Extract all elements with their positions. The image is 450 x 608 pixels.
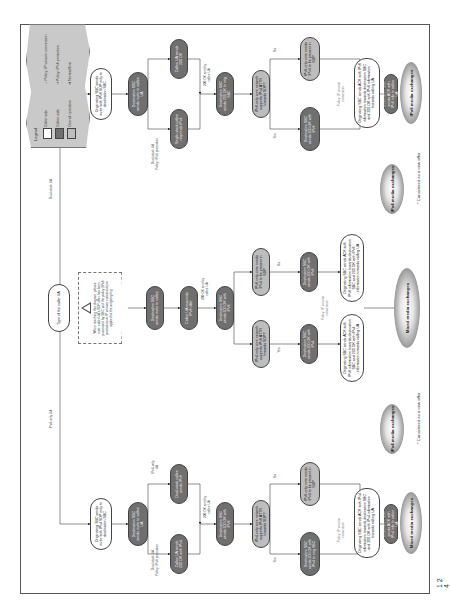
left-node-l9: Destination SBC sends ACK with IPv4 info… [384, 504, 398, 544]
note-box: When reaching this diagram, please note:… [78, 272, 122, 344]
left-node-l6: Destination SBC sends 200 OK with IPv4 t… [300, 532, 320, 576]
right-edge-dual: Dual-stack UA Policy: IPv6 promotion [152, 134, 160, 174]
left-callee-node: Destination SBC sends invite to callee U… [128, 502, 148, 546]
legend-arrow-promotion-label: Policy: IPv6 promotion [56, 45, 60, 81]
right-edge-policy: Policy: IP version conversion [338, 74, 346, 114]
right-node-r4: Destination SBC sends 200 OK to orig SBC [216, 72, 234, 116]
left-node-l3: Destination SBC sends 200 OK with IPv6 [216, 502, 234, 546]
legend-swatch-callee [55, 128, 64, 139]
right-node-r2: Single-stack callee responds IPv4 [170, 109, 188, 149]
legend-arrow-conversion-label: Policy: IP version conversion [44, 35, 48, 81]
mid-node-m5: IPv6-only core needs IPv4 to be present … [252, 248, 270, 296]
right-edge-no: No [274, 44, 278, 56]
footnote-left: * Considered as a new offer [416, 392, 421, 444]
left-node-l8: Originating SBC sends ACK with IPv4 info… [354, 488, 380, 558]
mid-edge-policy: Policy: IP version conversion [322, 288, 330, 328]
footnote-right: * Considered as a new offer [416, 152, 421, 204]
root-node: Type of the caller UA [48, 284, 70, 332]
left-cloud-ipv4: IPv4 media exchanges [380, 404, 404, 454]
left-edge-yes: Yes [274, 554, 278, 566]
right-edge-200ok: 200 OK sent by callee UA [204, 60, 212, 90]
branch-dual-stack-label: Dual-stack UA [50, 164, 54, 214]
flowchart-stage: Legend Caller side Callee side Overall o… [20, 22, 432, 594]
note-text: When reaching this diagram, please note:… [93, 280, 113, 335]
mid-edge-200ok: 200 OK sent by callee UA [202, 274, 210, 304]
right-cloud-ipv4: IPv4 media exchanges [380, 164, 404, 214]
left-edge-dual: Dual-stack UA Policy: IPv6 promotion [152, 540, 160, 580]
legend-label-caller: Caller side [44, 110, 48, 127]
right-node-r9: Originating SBC sends ACK with IPv6 info… [354, 58, 380, 128]
mid-node-m2: Callee UA responds IPv6 offer [180, 286, 198, 330]
right-start-node: Originating SBC sends invite with IPv6 S… [90, 68, 112, 120]
mid-edge-yes: Yes [278, 344, 282, 356]
legend-arrow-normal: ➔ Normal flow [68, 62, 72, 85]
mid-node-m7: Destination SBC sends 200 OK with IPv6 [300, 252, 318, 292]
legend-swatch-caller [43, 128, 52, 139]
right-edge-yes: Yes [274, 130, 278, 142]
mid-node-m6: Destination SBC sends 200 OK with IPv4 [300, 324, 318, 364]
left-node-l2: Dual-stack callee sends IPv6 [170, 464, 188, 504]
mid-node-m3: Destination SBC sends 200 OK with IPv6 [216, 286, 234, 330]
legend-arrow-promotion: ⇢ Policy: IPv6 promotion [56, 45, 60, 85]
left-node-l5: IPv6-only core needs IPv4 to be present … [300, 462, 320, 506]
right-node-r6: IPv6-only core needs IPv4 to be present … [300, 37, 320, 81]
left-edge-ipv6: IPv6-only UA [152, 452, 160, 482]
mid-cloud-mixed: Mixed media exchanges [394, 268, 420, 348]
left-node-l4: IPv4-only core network supports IPv6 ATT… [252, 500, 270, 548]
page-number: 1 2 4 [436, 576, 450, 588]
mid-node-m9: Originating SBC sends ACK with IPv6 info… [340, 234, 364, 302]
mid-node-m8: Originating SBC sends ACK with IPv6 info… [340, 314, 364, 382]
left-node-l1: Callee UA sends 200 OK with IPv4 [170, 534, 188, 574]
right-node-r11: Destination SBC sends ACK with IPv6 info… [384, 74, 398, 114]
right-cloud-ipv6: IPv6 media exchanges [400, 62, 422, 124]
mid-node-m1: Destination SBC sends invite to callee [146, 286, 164, 330]
legend-label-callee: Callee side [56, 109, 60, 127]
left-cloud-mixed: Mixed media exchanges [400, 492, 422, 554]
legend-label-overall: Overall operation [68, 100, 72, 127]
legend-arrow-normal-label: Normal flow [68, 62, 72, 81]
right-node-r3: Callee UA sends 200 OK [170, 39, 188, 79]
legend-arrow-conversion: → Policy: IP version conversion [44, 35, 48, 85]
legend: Legend Caller side Callee side Overall o… [26, 24, 90, 148]
left-edge-policy: Policy: IP version conversion [338, 510, 346, 550]
legend-swatch-overall [67, 128, 76, 139]
branch-ipv4-only-label: IPv4-only UA [50, 394, 54, 444]
mid-node-m4: IPv4-only core network supports IPv6 ATT… [252, 320, 270, 368]
right-node-r1: Destination SBC sends invite to callee U… [128, 72, 148, 116]
mid-edge-no: No [278, 258, 282, 270]
right-node-r5: IPv6-only core network supports IPv4 ATT… [252, 70, 270, 118]
warning-icon [81, 302, 91, 314]
left-edge-no: No [274, 470, 278, 482]
legend-title: Legend [33, 128, 38, 141]
left-edge-200ok: 200 OK sent by callee UA [204, 492, 212, 522]
right-node-r7: Destination SBC sends 200 OK with IPv6 [300, 107, 320, 151]
left-start-node: Originating SBC sends invite with IPv4 S… [90, 498, 112, 550]
